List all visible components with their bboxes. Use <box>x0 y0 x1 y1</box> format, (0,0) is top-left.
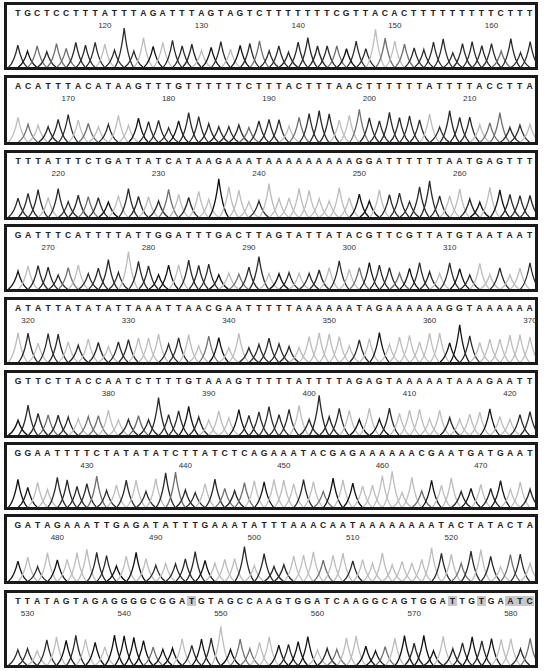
trace-peak-A <box>422 548 441 581</box>
base-call: A <box>210 520 220 530</box>
trace-peak-T <box>502 39 520 67</box>
base-call: T <box>133 230 143 240</box>
trace-peak-T <box>405 643 423 665</box>
base-call-sequence: TGCTCCTTTATTTAGATTTAGTAGTCTTTTTTTCGTTACA… <box>13 8 529 20</box>
base-call: T <box>525 8 535 18</box>
base-call: T <box>409 596 419 606</box>
trace-peak-C <box>215 488 234 507</box>
base-call: T <box>33 376 43 386</box>
base-call: A <box>505 303 515 313</box>
base-call: A <box>294 376 304 386</box>
base-call-sequence: GTTCTTACCAATCTTTTGTAAAGTTTTTATTTTAGAGTAA… <box>13 376 529 388</box>
base-call: A <box>414 303 424 313</box>
base-call: G <box>374 303 384 313</box>
base-call: A <box>505 376 515 386</box>
base-call: C <box>245 596 255 606</box>
base-call: T <box>515 156 525 166</box>
trace-peak-T <box>420 272 439 289</box>
base-call: T <box>121 448 131 458</box>
base-call: G <box>196 596 206 606</box>
trace-peak-T <box>274 565 293 581</box>
trace-peak-C <box>87 476 106 507</box>
trace-peak-A <box>500 275 519 289</box>
trace-peak-A <box>412 559 431 581</box>
base-call: C <box>505 520 515 530</box>
base-call: T <box>42 8 52 18</box>
base-call: C <box>354 81 364 91</box>
base-call: T <box>168 8 178 18</box>
base-call: T <box>314 376 324 386</box>
base-call: T <box>177 8 187 18</box>
tick-label: 560 <box>311 609 324 618</box>
base-call: A <box>294 303 304 313</box>
base-call: A <box>123 81 133 91</box>
base-call: A <box>121 520 131 530</box>
base-call: G <box>119 596 129 606</box>
trace-peak-A <box>39 197 58 217</box>
base-call: A <box>220 520 230 530</box>
base-call: A <box>43 520 53 530</box>
base-call: A <box>328 520 338 530</box>
base-call: T <box>334 230 344 240</box>
base-call: G <box>354 376 364 386</box>
trace-peak-T <box>410 263 429 289</box>
base-call: T <box>314 81 324 91</box>
base-call: G <box>235 8 245 18</box>
base-call: A <box>364 303 374 313</box>
base-call: T <box>351 8 361 18</box>
tick-label: 550 <box>214 609 227 618</box>
base-call: T <box>53 156 63 166</box>
trace-peak-T <box>67 635 85 665</box>
base-call: T <box>239 520 249 530</box>
trace-peak-T <box>206 479 225 507</box>
trace-peak-G <box>179 406 198 435</box>
base-call: T <box>113 303 123 313</box>
base-call: A <box>324 230 334 240</box>
base-call: A <box>515 230 525 240</box>
base-call: A <box>484 303 494 313</box>
trace-peak-T <box>99 124 118 142</box>
trace-peak-T <box>259 338 278 362</box>
base-call: G <box>13 520 23 530</box>
base-call: T <box>354 303 364 313</box>
trace-peak-T <box>360 118 379 142</box>
trace-plot <box>7 27 535 67</box>
trace-peak-A <box>109 196 128 217</box>
base-call: A <box>476 520 486 530</box>
base-call: T <box>143 376 153 386</box>
base-call: T <box>254 376 264 386</box>
base-call: A <box>158 8 168 18</box>
base-call: G <box>23 8 33 18</box>
base-call: A <box>23 230 33 240</box>
trace-peak-T <box>380 408 399 435</box>
base-call: T <box>42 596 52 606</box>
base-call: A <box>100 596 110 606</box>
base-call: T <box>23 303 33 313</box>
base-call: T <box>194 376 204 386</box>
trace-peak-A <box>442 478 461 507</box>
base-call: G <box>399 596 409 606</box>
base-call: G <box>484 376 494 386</box>
base-call: A <box>284 81 294 91</box>
trace-peak-C <box>231 639 249 665</box>
base-call: C <box>496 8 506 18</box>
trace-peak-T <box>270 46 288 67</box>
base-call: C <box>244 81 254 91</box>
trace-peak-A <box>280 126 299 142</box>
base-call: A <box>103 376 113 386</box>
base-call: T <box>13 596 23 606</box>
base-call: A <box>139 8 149 18</box>
base-call: A <box>141 520 151 530</box>
base-call: T <box>206 596 216 606</box>
base-call: T <box>103 81 113 91</box>
base-call: A <box>43 448 53 458</box>
base-call: A <box>344 81 354 91</box>
base-call: T <box>457 596 467 606</box>
base-call: T <box>457 8 467 18</box>
base-call: T <box>254 156 264 166</box>
trace-peak-G <box>480 409 499 435</box>
trace-peak-A <box>229 333 248 362</box>
base-call: T <box>110 8 120 18</box>
base-call: T <box>214 81 224 91</box>
base-call: A <box>196 8 206 18</box>
